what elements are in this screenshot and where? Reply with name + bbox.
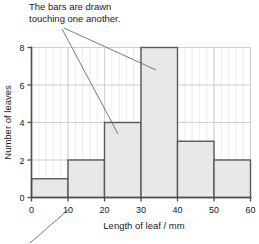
x-tick-label: 30	[136, 205, 146, 215]
histogram-bar	[68, 160, 105, 198]
y-tick-label: 0	[19, 193, 24, 203]
y-tick-label: 2	[19, 156, 24, 166]
x-tick-label: 40	[172, 205, 182, 215]
y-tick-label: 4	[19, 118, 24, 128]
x-tick-label: 20	[99, 205, 109, 215]
histogram-bar	[32, 179, 69, 198]
leaf-length-histogram: 010203040506002468 Length of leaf / mmNu…	[0, 0, 259, 244]
y-tick-label: 6	[19, 81, 24, 91]
histogram-screenshot: The bars are drawn touching one another.…	[0, 0, 259, 244]
x-tick-label: 60	[245, 205, 255, 215]
y-tick-label: 8	[19, 43, 24, 53]
x-tick-label: 0	[29, 205, 34, 215]
histogram-bar	[214, 160, 251, 198]
histogram-bar	[105, 123, 142, 198]
histogram-bar	[141, 48, 178, 198]
histogram-bar	[178, 141, 215, 197]
x-axis-title: Length of leaf / mm	[103, 220, 184, 231]
x-axis-leader-to-10-tick	[30, 210, 68, 243]
y-axis-title: Number of leaves	[2, 85, 13, 160]
x-tick-label: 50	[209, 205, 219, 215]
